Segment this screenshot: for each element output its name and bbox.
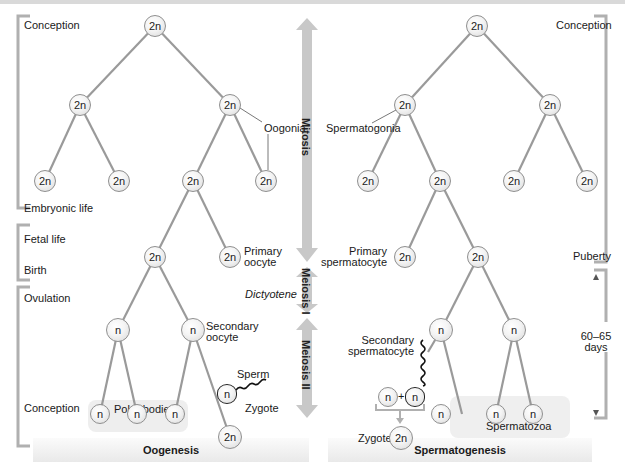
cell-node: 2n — [389, 426, 413, 450]
cell-node: 2n — [34, 170, 56, 192]
oogonia-pointer — [240, 108, 268, 170]
cell-node: 2n — [108, 170, 130, 192]
primary-spermatocyte-label-2: spermatocyte — [316, 256, 387, 269]
cell-node: n — [127, 404, 147, 424]
cell-node: 2n — [467, 246, 489, 268]
cell-node: n — [486, 404, 506, 424]
cell-node: n — [217, 384, 237, 404]
secondary-spermatocyte-label-2: spermatocyte — [340, 345, 414, 358]
primary-oocyte-label-2: oocyte — [244, 256, 276, 269]
plus-sign: + — [398, 390, 404, 403]
cell-node: n — [523, 404, 543, 424]
cell-node: 2n — [144, 246, 166, 268]
cell-node: 2n — [144, 15, 166, 37]
sperm-label: Sperm — [237, 368, 269, 381]
cell-node: 2n — [394, 94, 416, 116]
timeline-conception-2: Conception — [24, 402, 80, 415]
cell-node: 2n — [466, 15, 488, 37]
sperm-timeline-puberty: Puberty — [573, 250, 611, 263]
oogonia-label: Oogonia — [264, 122, 306, 135]
cell-node: n — [502, 318, 526, 342]
cell-node: n — [405, 387, 425, 407]
cell-node: n — [165, 404, 185, 424]
timeline-embryonic: Embryonic life — [24, 202, 93, 215]
sperm-tail-right — [421, 340, 425, 386]
diagram-canvas — [0, 0, 625, 464]
sperm-timeline-conception: Conception — [556, 19, 612, 32]
cell-node: n — [378, 387, 398, 407]
cell-node: 2n — [219, 246, 241, 268]
cell-node: 2n — [576, 170, 598, 192]
oogenesis-title: Oogenesis — [33, 438, 309, 462]
cell-node: n — [90, 404, 110, 424]
cell-node: 2n — [357, 170, 379, 192]
secondary-oocyte-label-2: oocyte — [206, 331, 238, 344]
cell-node: 2n — [218, 425, 242, 449]
timeline-fetal: Fetal life — [24, 233, 66, 246]
meiosis1-label: Meiosis I — [300, 268, 312, 314]
cell-node: n — [181, 318, 205, 342]
cell-node: n — [429, 318, 453, 342]
oogenesis-tree-lines — [45, 26, 266, 437]
cell-node: 2n — [539, 94, 561, 116]
cell-node: 2n — [69, 94, 91, 116]
spermatogonia-label: Spermatogonia — [326, 122, 401, 135]
cell-node: 2n — [182, 170, 204, 192]
cell-node: n — [106, 318, 130, 342]
cell-node: 2n — [394, 246, 416, 268]
timeline-conception: Conception — [24, 19, 80, 32]
duration-label-2: days — [578, 341, 614, 354]
dictyotene-label: Dictyotene — [245, 288, 297, 301]
timeline-ovulation: Ovulation — [24, 292, 70, 305]
cell-node: 2n — [429, 170, 451, 192]
timeline-birth: Birth — [24, 264, 47, 277]
zygote-label-right: Zygote — [358, 432, 392, 445]
meiosis2-label: Meiosis II — [300, 340, 312, 390]
zygote-label: Zygote — [245, 402, 279, 415]
cell-node: n — [431, 404, 451, 424]
cell-node: 2n — [255, 170, 277, 192]
cell-node: 2n — [219, 94, 241, 116]
oogenesis-timeline-brackets — [18, 16, 30, 446]
cell-node: 2n — [503, 170, 525, 192]
